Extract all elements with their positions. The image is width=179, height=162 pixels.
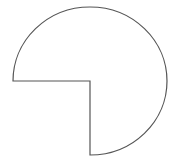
diagram-canvas [0,0,179,162]
three-quarter-circle-shape [13,7,167,155]
